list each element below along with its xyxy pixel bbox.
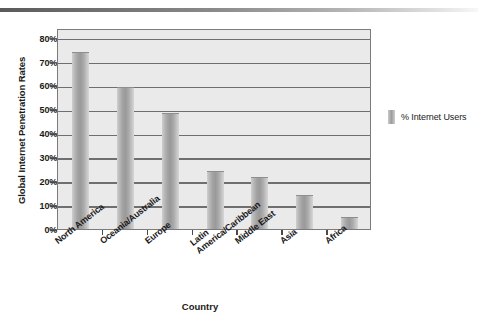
gridline-80% bbox=[58, 39, 370, 41]
bar-europe bbox=[162, 113, 179, 229]
legend-label-internet-users: % Internet Users bbox=[401, 112, 466, 122]
bar-oceania-australia bbox=[117, 87, 134, 229]
legend-swatch-internet-users bbox=[388, 110, 395, 124]
x-axis-title: Country bbox=[0, 301, 400, 312]
bar-asia bbox=[296, 195, 313, 230]
y-tick-mark-20% bbox=[50, 181, 57, 183]
gridline-60% bbox=[58, 87, 370, 89]
x-axis-label-asia: Asia bbox=[278, 227, 299, 246]
y-tick-mark-40% bbox=[50, 134, 57, 136]
chart-legend: % Internet Users bbox=[388, 110, 466, 124]
plot-area bbox=[57, 29, 371, 230]
y-tick-mark-50% bbox=[50, 110, 57, 112]
gridline-70% bbox=[58, 63, 370, 65]
gridline-40% bbox=[58, 135, 370, 137]
bar-north-america bbox=[72, 52, 89, 229]
gridline-30% bbox=[58, 158, 370, 160]
y-tick-mark-60% bbox=[50, 86, 57, 88]
y-tick-mark-70% bbox=[50, 62, 57, 64]
y-tick-mark-30% bbox=[50, 157, 57, 159]
x-label-line: Asia bbox=[278, 227, 299, 246]
y-tick-mark-10% bbox=[50, 205, 57, 207]
x-axis-labels: North AmericaOceania/AustraliaEuropeLati… bbox=[0, 230, 478, 310]
y-axis-ticks: 0%10%20%30%40%50%60%70%80% bbox=[12, 29, 57, 230]
gridline-50% bbox=[58, 111, 370, 113]
bar-chart-figure: Global Internet Penetration Rates 0%10%2… bbox=[0, 0, 478, 321]
y-tick-mark-80% bbox=[50, 38, 57, 40]
